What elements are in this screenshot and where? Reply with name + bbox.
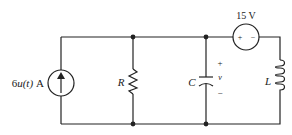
current-source-label: 6u(t)A	[12, 77, 44, 90]
resistor-label: R	[117, 76, 125, 88]
node-dot-bottom-r	[131, 122, 136, 127]
voltage-source-label: 15 V	[236, 10, 256, 21]
circuit-diagram: 6u(t)A R C + v − + − 15 V L	[0, 0, 292, 135]
node-dot-bottom-c	[204, 122, 209, 127]
capacitor-label: C	[188, 76, 196, 88]
capacitor-minus-sign: −	[217, 88, 222, 98]
node-dot-top-c	[204, 35, 209, 40]
capacitor-plus-sign: +	[217, 58, 222, 68]
current-source-icon	[48, 70, 74, 96]
resistor-icon	[129, 69, 137, 94]
inductor-label: L	[264, 75, 271, 87]
voltage-source-plus: +	[238, 33, 243, 42]
node-dot-top-r	[131, 35, 136, 40]
inductor-icon	[276, 60, 285, 100]
voltage-source-minus: −	[251, 33, 256, 42]
capacitor-voltage-label: v	[218, 73, 222, 82]
